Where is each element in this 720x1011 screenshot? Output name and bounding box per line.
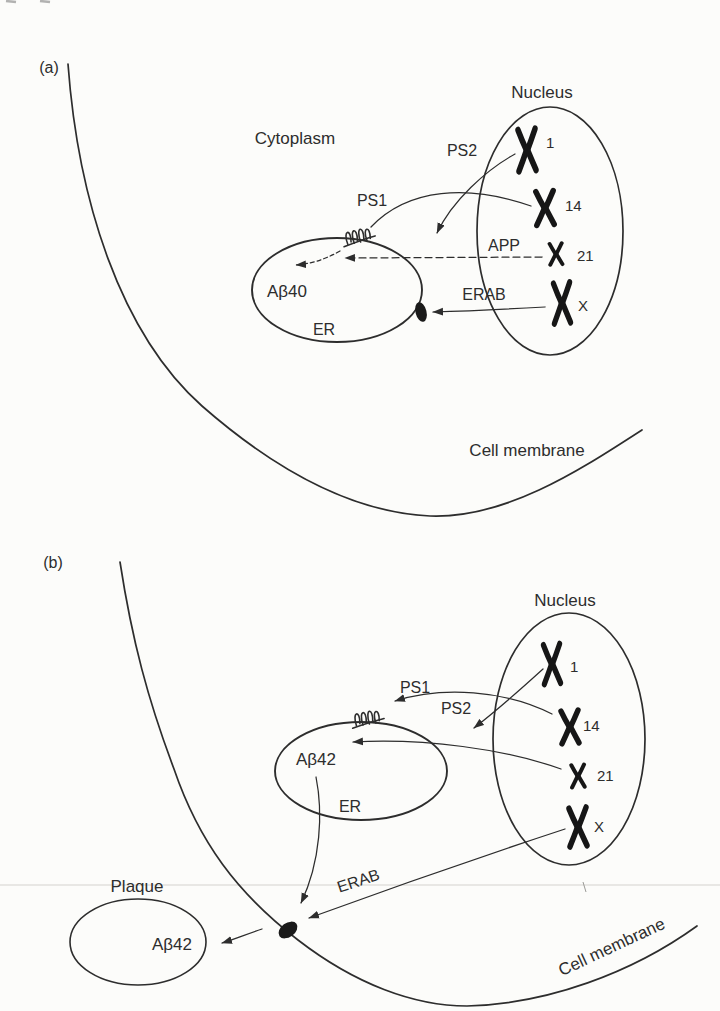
chromosome-x-label-a: X <box>578 297 588 314</box>
ps2-label-a: PS2 <box>447 142 477 159</box>
cell-membrane-label-a: Cell membrane <box>469 441 584 460</box>
chromosome-x-glyph-a <box>553 283 570 324</box>
presenilin-coil-a <box>342 228 375 247</box>
alzheimer-pathway-diagram: (a) Cell membrane Cytoplasm Nucleus ER A… <box>0 0 720 1011</box>
plaque-deposition-arrow-b <box>222 929 262 943</box>
nucleus-label-b: Nucleus <box>534 591 595 610</box>
erab-label-a: ERAB <box>462 286 506 303</box>
app-arrow-a <box>345 257 542 258</box>
panel-b: (b) Cell membrane Nucleus ER Aβ42 1 14 2… <box>43 554 697 1006</box>
ps2-label-b: PS2 <box>441 700 471 717</box>
panel-a: (a) Cell membrane Cytoplasm Nucleus ER A… <box>39 59 642 516</box>
nucleus-ellipse-b <box>493 613 645 865</box>
chromosome-1-label-a: 1 <box>546 134 554 151</box>
chromosome-21-label-a: 21 <box>577 247 594 264</box>
app-label-a: APP <box>488 237 520 254</box>
erab-label-b: ERAB <box>335 866 382 896</box>
plaque-label-b: Plaque <box>111 877 164 896</box>
chromosome-1-label-b: 1 <box>570 658 578 675</box>
chromosome-14-glyph-b <box>561 710 579 744</box>
abeta40-label-a: Aβ40 <box>267 282 307 301</box>
chromosome-14-glyph-a <box>536 191 554 226</box>
chromosome-x-glyph-b <box>569 807 587 846</box>
chromosome-21-glyph-a <box>550 243 563 265</box>
scan-tick-artifact <box>583 882 586 892</box>
figure-page: (a) Cell membrane Cytoplasm Nucleus ER A… <box>0 0 720 1011</box>
chromosome-14-label-a: 14 <box>565 197 582 214</box>
erab-arrow-a <box>433 307 545 312</box>
cell-membrane-label-b: Cell membrane <box>555 914 667 980</box>
erab-arrow-b <box>309 829 565 918</box>
chromosome-1-glyph-a <box>518 129 536 171</box>
er-label-b: ER <box>339 798 361 815</box>
panel-a-tag: (a) <box>39 59 59 76</box>
page-crop-artifact <box>6 1 16 2</box>
ps1-label-a: PS1 <box>357 192 387 209</box>
chromosome-14-label-b: 14 <box>583 717 600 734</box>
cytoplasm-label: Cytoplasm <box>255 129 335 148</box>
scan-artifacts <box>0 1 720 892</box>
page-crop-artifact <box>40 1 50 2</box>
er-label-a: ER <box>313 321 335 338</box>
chromosome-21-label-b: 21 <box>597 767 614 784</box>
erab-protein-blob-a <box>413 301 429 323</box>
abeta-release-arrow-a <box>296 251 340 265</box>
chromosome-21-glyph-b <box>571 764 585 787</box>
panel-b-tag: (b) <box>43 554 63 571</box>
nucleus-label-a: Nucleus <box>511 83 572 102</box>
abeta42-secretion-arrow-b <box>301 777 320 903</box>
abeta42-plaque-label-b: Aβ42 <box>152 935 192 954</box>
chr21-to-er-arrow-b <box>353 741 561 769</box>
presenilin-coil-b <box>352 710 385 728</box>
chromosome-1-glyph-b <box>543 644 560 684</box>
abeta42-er-label-b: Aβ42 <box>296 750 336 769</box>
ps1-label-b: PS1 <box>400 679 430 696</box>
chromosome-x-label-b: X <box>594 818 604 835</box>
